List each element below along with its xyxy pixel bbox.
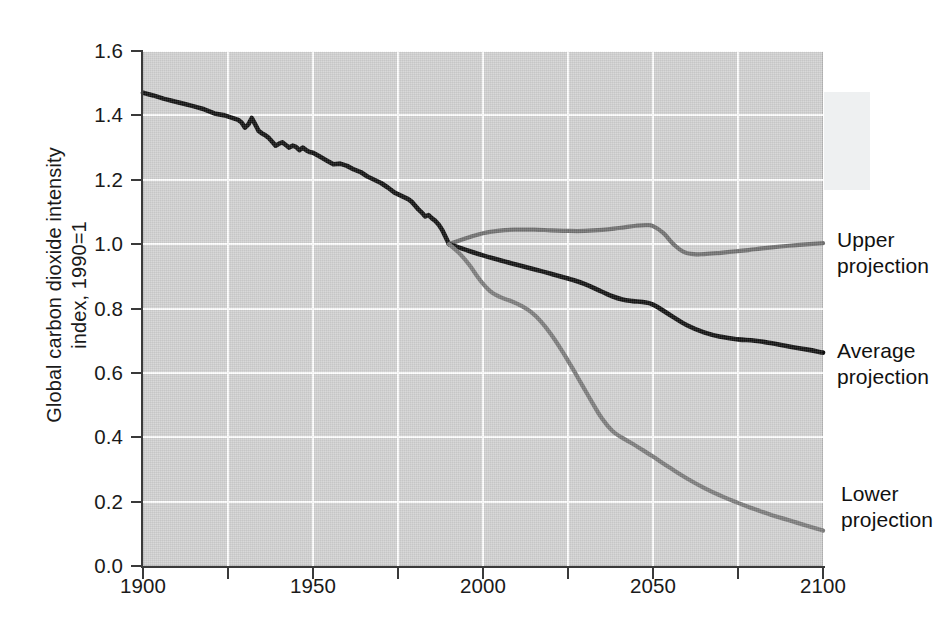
y-axis-tick xyxy=(131,372,143,374)
x-axis-tick-label: 2000 xyxy=(438,576,528,597)
x-axis-tick-label: 1900 xyxy=(98,576,188,597)
plot-area: Upper projection Average projection Lowe… xyxy=(143,51,823,566)
y-axis-tick xyxy=(131,501,143,503)
x-axis-tick xyxy=(567,568,569,579)
y-axis-title-line1: Global carbon dioxide intensity xyxy=(43,147,65,422)
series-line-upper-projection xyxy=(449,225,823,254)
x-axis-tick xyxy=(397,568,399,579)
right-edge-swatch xyxy=(824,92,870,190)
y-axis-tick-label: 0.0 xyxy=(63,556,123,577)
x-axis-tick xyxy=(227,568,229,579)
annotation-upper-projection: Upper projection xyxy=(837,227,929,278)
series-line-lower-projection xyxy=(449,244,823,530)
x-axis-tick-label: 2100 xyxy=(778,576,868,597)
y-axis-tick xyxy=(131,565,143,567)
y-axis-tick xyxy=(131,114,143,116)
x-axis-tick-label: 2050 xyxy=(608,576,698,597)
x-axis-tick-label: 1950 xyxy=(268,576,358,597)
x-axis-tick xyxy=(737,568,739,579)
y-axis-title: Global carbon dioxide intensity index, 1… xyxy=(42,70,92,500)
y-axis-tick xyxy=(131,243,143,245)
y-axis-tick-label: 1.6 xyxy=(63,41,123,62)
y-axis-tick xyxy=(131,308,143,310)
y-axis-tick xyxy=(131,50,143,52)
y-axis-tick xyxy=(131,179,143,181)
y-axis-tick xyxy=(131,436,143,438)
annotation-lower-projection: Lower projection xyxy=(841,481,933,532)
series-lines xyxy=(143,51,823,566)
y-axis-title-line2: index, 1990=1 xyxy=(68,221,90,349)
annotation-average-projection: Average projection xyxy=(837,338,929,389)
series-line-historical xyxy=(143,93,449,244)
